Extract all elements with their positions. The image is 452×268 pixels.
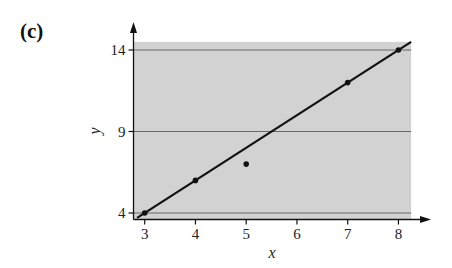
x-tick-label: 5 — [242, 226, 250, 242]
x-tick-label: 3 — [141, 226, 149, 242]
x-tick-label: 4 — [192, 226, 200, 242]
data-point — [345, 80, 351, 86]
x-tick-label: 7 — [344, 226, 352, 242]
x-axis-arrow-icon — [420, 216, 431, 223]
data-point — [193, 178, 199, 184]
data-point — [142, 210, 148, 216]
scatter-chart: 3456784914 x y — [0, 0, 452, 268]
y-tick-label: 4 — [118, 205, 126, 221]
x-tick-label: 8 — [395, 226, 403, 242]
y-axis-label: y — [86, 127, 104, 137]
y-axis-arrow-icon — [130, 22, 137, 33]
x-axis-label: x — [267, 244, 275, 261]
x-tick-label: 6 — [293, 226, 301, 242]
data-point — [396, 47, 402, 53]
y-tick-label: 9 — [118, 124, 126, 140]
data-point — [243, 161, 249, 167]
y-tick-label: 14 — [111, 42, 127, 58]
